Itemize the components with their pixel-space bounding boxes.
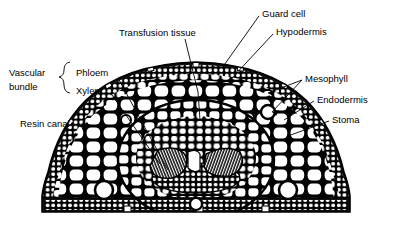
label-vascular-bundle: Vascular bundle xyxy=(9,62,70,93)
xylem-strand-right xyxy=(204,148,242,176)
hypodermis-label: Hypodermis xyxy=(276,26,327,37)
endodermis-label: Endodermis xyxy=(317,94,368,105)
vascular-bundle-brace xyxy=(59,62,70,93)
guard-cell-label: Guard cell xyxy=(262,8,305,19)
xylem-midline-gap xyxy=(188,150,200,171)
xylem-label: Xylem xyxy=(76,85,102,96)
transfusion-tissue-label: Transfusion tissue xyxy=(119,27,196,38)
resin-canal-label: Resin canal xyxy=(20,118,70,129)
label-guard-cell: Guard cell xyxy=(222,8,305,68)
resin-canal-right xyxy=(279,181,297,199)
guard-cell-leader xyxy=(222,16,259,68)
vascular-bundle-label-line1: Vascular xyxy=(9,67,45,78)
resin-canal-bottom xyxy=(190,198,202,210)
needle-cross-section-figure: Transfusion tissue Guard cell Hypodermis… xyxy=(0,0,393,245)
stoma-label: Stoma xyxy=(332,114,360,125)
phloem-label: Phloem xyxy=(76,67,108,78)
vascular-bundle-label-line2: bundle xyxy=(9,81,38,92)
mesophyll-label: Mesophyll xyxy=(305,73,348,84)
resin-canal-left xyxy=(95,181,113,199)
